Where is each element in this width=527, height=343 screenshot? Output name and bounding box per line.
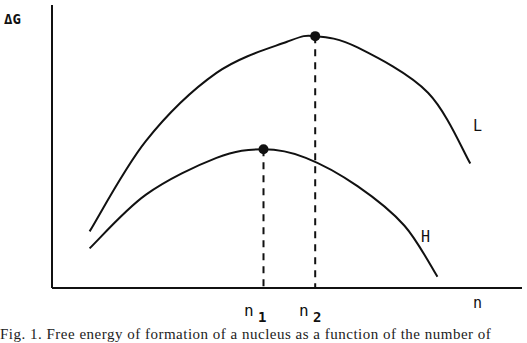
x-tick-n1: n 1 — [244, 301, 266, 325]
x-tick-label: n — [299, 301, 309, 320]
curve-L — [90, 36, 471, 232]
series-label-L: L — [473, 117, 482, 135]
x-tick-subscript: 2 — [313, 309, 321, 325]
x-tick-n2: n 2 — [299, 301, 321, 325]
maximum-point-L — [310, 31, 320, 41]
figure-caption: Fig. 1. Free energy of formation of a nu… — [0, 326, 527, 343]
maximum-point-H — [259, 144, 269, 154]
series-label-H: H — [421, 228, 430, 246]
y-axis-label: ΔG — [4, 11, 21, 27]
x-axis-label: n — [473, 294, 482, 312]
x-tick-subscript: 1 — [258, 309, 266, 325]
x-tick-label: n — [244, 301, 254, 320]
